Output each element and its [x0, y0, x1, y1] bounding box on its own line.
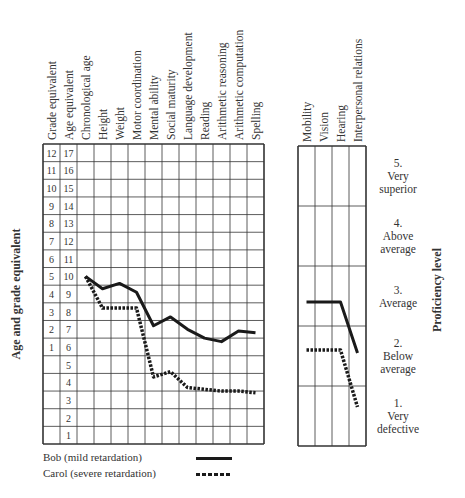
y-tick-label: 7 [49, 236, 54, 247]
proficiency-level-label: Above [383, 230, 414, 242]
proficiency-level-label: 2. [394, 337, 403, 349]
column-header: Mental ability [148, 75, 161, 140]
y-tick-label: 14 [64, 201, 74, 212]
legend-item-carol: Carol (severe retardation) [43, 467, 156, 479]
right-y-axis-label: Proficiency level [430, 247, 444, 332]
y-tick-label: 16 [64, 165, 74, 176]
proficiency-level-label: 4. [394, 217, 403, 229]
y-tick-label: 1 [49, 342, 54, 353]
y-tick-label: 15 [64, 183, 74, 194]
proficiency-level-label: Very [387, 170, 409, 183]
y-axis-label: Age and grade equivalent [9, 228, 23, 359]
proficiency-level-label: Very [387, 410, 409, 423]
proficiency-level-label: Average [379, 297, 417, 310]
proficiency-level-label: average [380, 243, 416, 256]
column-header: Motor coordination [131, 50, 143, 140]
y-tick-label: 11 [47, 165, 57, 176]
column-header: Mobility [301, 101, 314, 142]
y-tick-label: 8 [49, 218, 54, 229]
column-header: Hearing [335, 105, 348, 142]
column-header: Interpersonal relations [352, 38, 365, 142]
proficiency-chart: Grade equivalentAge equivalentChronologi… [0, 0, 465, 498]
column-header: Grade equivalent [46, 60, 59, 140]
y-tick-label: 9 [66, 289, 71, 300]
y-tick-label: 3 [49, 307, 54, 318]
column-header: Reading [199, 101, 212, 140]
proficiency-level-label: Below [383, 350, 414, 362]
column-header: Height [97, 108, 110, 140]
y-tick-label: 10 [47, 183, 57, 194]
column-header: Chronological age [80, 55, 93, 140]
dashed-line-swatch-icon [196, 473, 232, 476]
column-header: Arithmetic reasoning [216, 42, 229, 140]
solid-line-swatch-icon [196, 457, 232, 460]
proficiency-level-label: 1. [394, 397, 403, 409]
y-tick-label: 2 [66, 413, 71, 424]
y-tick-label: 2 [49, 324, 54, 335]
y-tick-label: 6 [49, 254, 54, 265]
y-tick-label: 3 [66, 395, 71, 406]
y-tick-label: 12 [47, 148, 57, 159]
y-tick-label: 6 [66, 342, 71, 353]
y-tick-label: 17 [64, 148, 74, 159]
column-header: Arithmetic computation [233, 30, 246, 140]
column-header: Vision [318, 112, 330, 142]
proficiency-level-label: average [380, 363, 416, 376]
proficiency-level-label: 3. [394, 284, 403, 296]
column-header: Weight [114, 106, 127, 140]
y-tick-label: 8 [66, 307, 71, 318]
proficiency-level-label: superior [379, 183, 417, 196]
y-tick-label: 1 [66, 430, 71, 441]
y-tick-label: 10 [64, 271, 74, 282]
y-tick-label: 4 [49, 289, 54, 300]
column-header: Social maturity [165, 69, 178, 140]
column-header: Age equivalent [63, 69, 76, 140]
column-header: Language development [182, 32, 195, 140]
proficiency-level-label: 5. [394, 157, 403, 169]
y-tick-label: 9 [49, 201, 54, 212]
legend-item-bob: Bob (mild retardation) [43, 451, 142, 463]
legend-label-carol: Carol (severe retardation) [43, 467, 156, 479]
y-tick-label: 11 [64, 254, 74, 265]
y-tick-label: 12 [64, 236, 74, 247]
proficiency-level-label: defective [377, 423, 419, 435]
y-tick-label: 13 [64, 218, 74, 229]
column-header: Spelling [250, 101, 263, 140]
y-tick-label: 5 [49, 271, 54, 282]
y-tick-label: 7 [66, 324, 71, 335]
legend-label-bob: Bob (mild retardation) [43, 451, 142, 463]
y-tick-label: 4 [66, 377, 71, 388]
y-tick-label: 5 [66, 360, 71, 371]
